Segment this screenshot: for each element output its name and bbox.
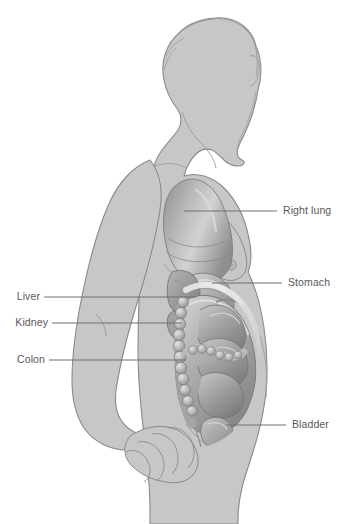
label-bladder: Bladder [292, 419, 329, 430]
colon-haustrum [175, 307, 186, 318]
label-colon: Colon [0, 354, 45, 365]
colon-haustrum [216, 351, 225, 360]
label-right-lung: Right lung [283, 205, 331, 216]
colon-haustrum [173, 329, 185, 341]
colon-haustrum [178, 297, 189, 308]
illustration-canvas: Right lung Stomach Bladder Liver Kidney … [0, 0, 342, 524]
hand [125, 426, 198, 482]
colon-haustrum [174, 318, 185, 329]
colon-haustrum [175, 362, 187, 374]
colon-haustrum [225, 353, 233, 361]
colon-haustrum [179, 384, 190, 395]
colon-haustrum [183, 396, 194, 407]
colon-haustrum [187, 406, 197, 416]
colon-haustrum [207, 347, 216, 356]
label-stomach: Stomach [288, 277, 330, 288]
anatomy-illustration [0, 0, 342, 524]
colon-haustrum [173, 340, 185, 352]
label-liver: Liver [0, 291, 40, 302]
label-kidney: Kidney [0, 317, 48, 328]
colon-haustrum [177, 373, 189, 385]
colon-haustrum [198, 345, 207, 354]
colon-haustrum [234, 351, 242, 359]
colon-haustrum [189, 346, 198, 355]
